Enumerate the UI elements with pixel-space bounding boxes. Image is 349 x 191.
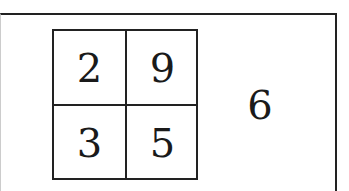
grid-cell-r1c2: 9 [127,31,198,104]
number-grid: 2 9 3 5 [52,29,198,180]
grid-cell-r1c1: 2 [54,31,125,104]
grid-cell-r2c2: 5 [127,106,198,179]
side-value: 6 [240,80,280,130]
grid-cell-r2c1: 3 [54,106,125,179]
